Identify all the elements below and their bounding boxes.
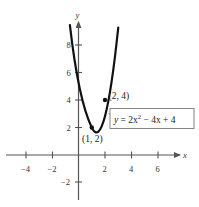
point-label: (2, 4) [109,91,130,102]
vertex-label: (1, 2) [82,134,103,145]
y-tick-label: 6 [67,68,71,78]
y-tick-labels: −2 2 4 6 8 [61,40,72,187]
axes: x y [6,10,187,200]
x-tick-label: 4 [129,164,134,174]
x-tick-label: −4 [21,164,31,174]
x-tick-label: 2 [103,164,107,174]
y-tick-label: 2 [67,123,71,133]
vertex-point [90,125,94,129]
equation-label: y = 2x2 − 4x + 4 [113,113,176,125]
y-axis-label: y [75,10,80,20]
x-tick-label: 6 [156,164,160,174]
y-tick-label: 4 [67,95,72,105]
x-tick-label: −2 [48,164,57,174]
x-tick-labels: −4 −2 2 4 6 [21,164,160,174]
x-axis-label: x [182,150,187,160]
parabola-chart: x y −4 −2 2 4 6 −2 2 4 6 8 (1, 2) (2, 4) [0,0,199,207]
point-2-4 [103,98,107,102]
y-tick-label: −2 [61,177,70,187]
y-tick-label: 8 [67,40,71,50]
